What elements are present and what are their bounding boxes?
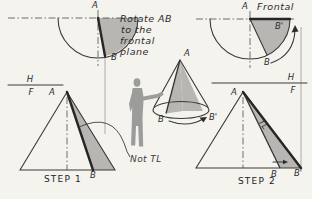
rotate-annotation: Rotate AB to the frontal plane <box>119 13 172 57</box>
step2-top-view: A Frontal B' B <box>196 1 299 68</box>
step2-front-line-ab-prime-true-length <box>243 92 301 168</box>
annotation-line1: Rotate AB <box>120 13 172 24</box>
annotation-line2: to the <box>121 24 152 35</box>
step2-frontal-label: Frontal <box>257 1 294 12</box>
step2-rotation-sector-shade <box>250 19 290 55</box>
step1-top-label-a: A <box>91 0 98 10</box>
step1-front-label-a: A <box>48 87 55 97</box>
cone-label-b-prime: B' <box>209 112 217 122</box>
step2-front-view: A TL B B' STEP 2 <box>196 87 302 186</box>
not-tl-label: Not TL <box>130 154 162 164</box>
step1-front-label-b: B <box>90 170 96 180</box>
step2-front-label-b-prime: B' <box>294 168 302 178</box>
step2-caption: STEP 2 <box>238 176 276 186</box>
step2-top-label-b: B <box>264 57 270 67</box>
human-figure <box>129 78 164 146</box>
step2-front-label-a: A <box>230 87 237 97</box>
step2-fold-line: H F <box>212 72 307 95</box>
step1-top-label-b: B <box>111 52 117 62</box>
step1-front-view: A B STEP 1 <box>20 87 115 184</box>
step1-caption: STEP 1 <box>44 174 82 184</box>
annotation-line4: plane <box>119 46 149 57</box>
figure-legs <box>131 118 143 147</box>
step2-front-line-ab <box>243 92 280 168</box>
step2-top-label-a: A <box>241 1 248 11</box>
annotation-line3: frontal <box>120 35 155 46</box>
step2-hf-label-f: F <box>291 85 296 95</box>
step2-rotation-arrowhead <box>292 25 299 33</box>
cone-label-a: A <box>183 48 190 58</box>
step2-top-label-b-prime: B' <box>275 21 283 31</box>
descriptive-geometry-diagram: A B H F A B STEP 1 Not TL Rotate AB to t… <box>0 0 312 199</box>
step1-hf-label-h: H <box>27 74 34 84</box>
figure-head <box>134 78 141 86</box>
step2-hf-label-h: H <box>288 72 295 82</box>
cone-rotation-arc <box>169 119 203 124</box>
diagram-canvas: A B H F A B STEP 1 Not TL Rotate AB to t… <box>0 0 312 199</box>
step1-hf-label-f: F <box>29 87 34 97</box>
cone-label-b: B <box>158 114 164 124</box>
pictorial-cone: A B B' <box>153 48 217 124</box>
